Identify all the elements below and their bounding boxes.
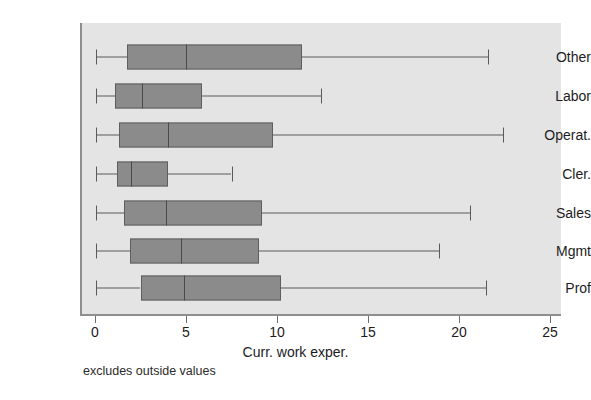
chart-footnote: excludes outside values: [83, 364, 216, 378]
box-iqr-prof: [141, 276, 281, 301]
median-line-prof: [184, 276, 185, 301]
whisker-high-cap: [486, 281, 487, 296]
whisker-high-line: [281, 288, 487, 289]
box-plot-row-prof: [0, 0, 591, 400]
x-axis-title: Curr. work exper.: [0, 344, 591, 360]
boxplot-figure: OtherLaborOperat.Cler.SalesMgmtProf 0510…: [0, 0, 591, 400]
whisker-low-cap: [96, 281, 97, 296]
whisker-low-line: [96, 288, 141, 289]
